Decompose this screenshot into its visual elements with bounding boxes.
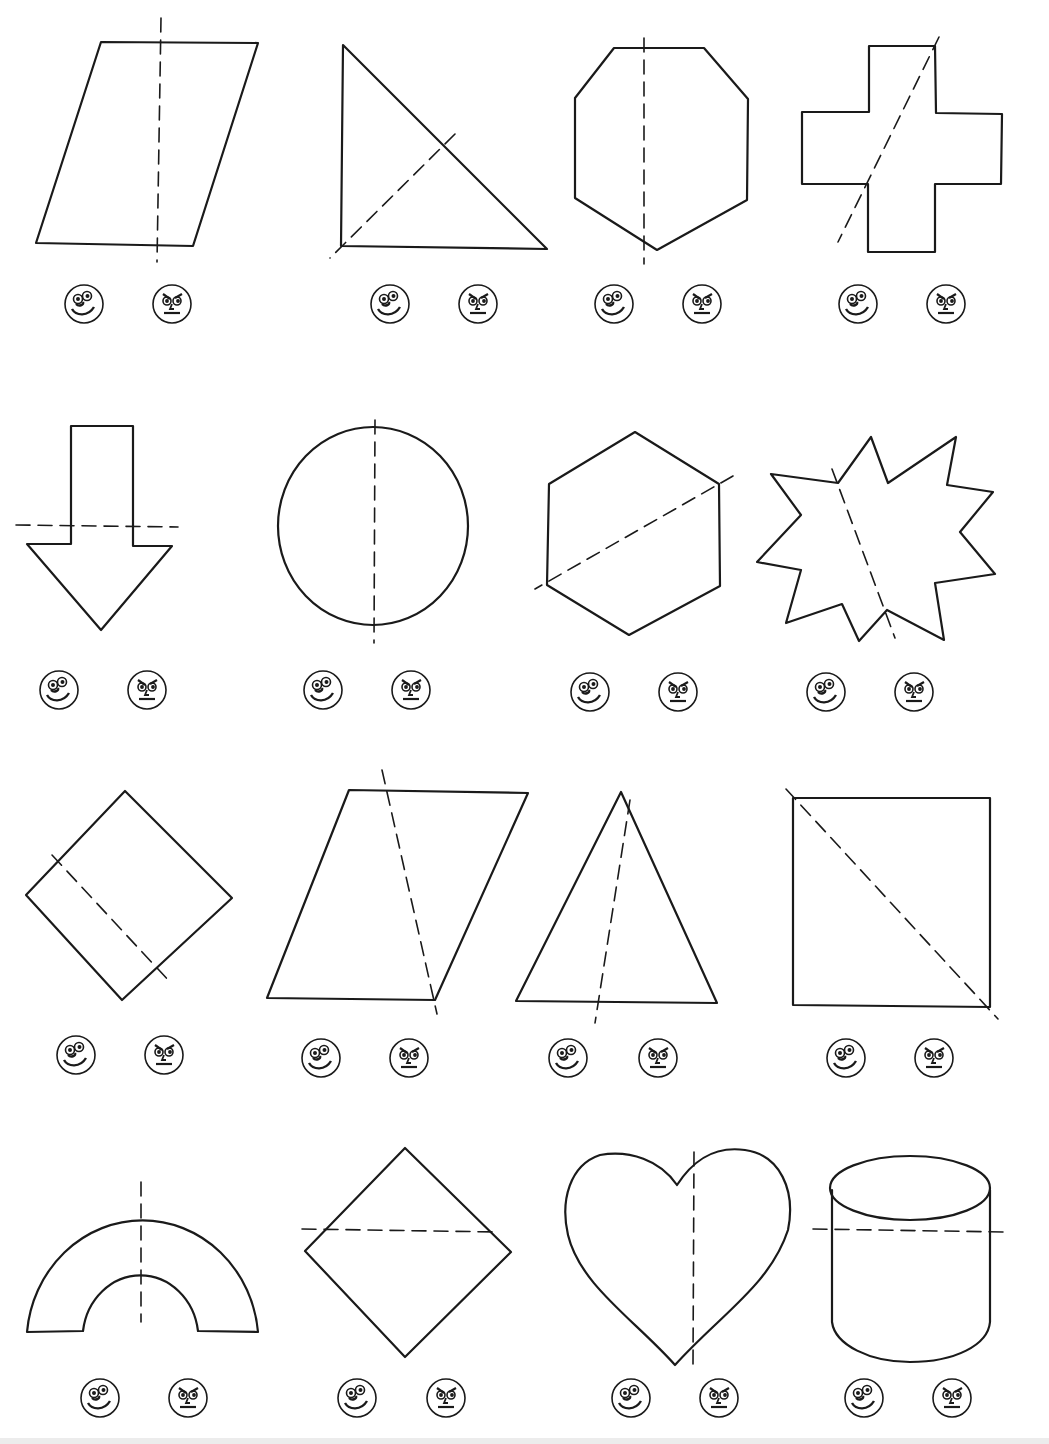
fold-line [832, 469, 895, 638]
shape-tilted-square [26, 791, 232, 1000]
symmetric-no-button-4[interactable] [925, 283, 967, 325]
shape-arch [27, 1182, 258, 1332]
frowning-face-icon [457, 283, 499, 325]
symmetric-yes-button-13[interactable] [79, 1377, 121, 1419]
frowning-face-icon [167, 1377, 209, 1419]
shape-circle [278, 420, 468, 643]
symmetric-yes-button-16[interactable] [843, 1377, 885, 1419]
symmetric-yes-button-2[interactable] [369, 283, 411, 325]
symmetric-yes-button-3[interactable] [593, 283, 635, 325]
smiley-face-icon [593, 283, 635, 325]
fold-line [16, 525, 178, 527]
shape-diamond [302, 1148, 511, 1357]
smiley-face-icon [369, 283, 411, 325]
symmetric-no-button-8[interactable] [893, 671, 935, 713]
fold-line [813, 1229, 1004, 1232]
symmetric-no-button-2[interactable] [457, 283, 499, 325]
page-bottom-edge [0, 1438, 1049, 1444]
fold-line [330, 134, 455, 258]
smiley-face-icon [300, 1037, 342, 1079]
symmetric-yes-button-8[interactable] [805, 671, 847, 713]
smiley-face-icon [569, 671, 611, 713]
smiley-face-icon [79, 1377, 121, 1419]
symmetric-yes-button-7[interactable] [569, 671, 611, 713]
smiley-face-icon [825, 1037, 867, 1079]
fold-line [382, 770, 437, 1014]
smiley-face-icon [843, 1377, 885, 1419]
symmetric-no-button-14[interactable] [425, 1377, 467, 1419]
frowning-face-icon [425, 1377, 467, 1419]
shape-cylinder [813, 1156, 1004, 1362]
symmetric-no-button-6[interactable] [390, 669, 432, 711]
smiley-face-icon [302, 669, 344, 711]
shapes-canvas: .fold{stroke-dasharray:14 8;stroke-width… [0, 0, 1049, 1444]
frowning-face-icon [388, 1037, 430, 1079]
smiley-face-icon [837, 283, 879, 325]
smiley-face-icon [38, 669, 80, 711]
shape-cross [802, 37, 1002, 252]
shape-parallelogram-1 [36, 18, 258, 262]
symmetric-yes-button-9[interactable] [55, 1034, 97, 1076]
symmetric-no-button-1[interactable] [151, 283, 193, 325]
symmetric-yes-button-4[interactable] [837, 283, 879, 325]
symmetric-no-button-16[interactable] [931, 1377, 973, 1419]
frowning-face-icon [698, 1377, 740, 1419]
symmetric-yes-button-11[interactable] [547, 1037, 589, 1079]
smiley-face-icon [805, 671, 847, 713]
symmetric-yes-button-1[interactable] [63, 283, 105, 325]
symmetric-no-button-7[interactable] [657, 671, 699, 713]
symmetric-yes-button-5[interactable] [38, 669, 80, 711]
frowning-face-icon [126, 669, 168, 711]
smiley-face-icon [63, 283, 105, 325]
symmetric-no-button-13[interactable] [167, 1377, 209, 1419]
fold-line [302, 1229, 498, 1232]
smiley-face-icon [610, 1377, 652, 1419]
shape-down-arrow [16, 426, 178, 630]
smiley-face-icon [336, 1377, 378, 1419]
shape-starburst [757, 437, 995, 641]
fold-line [786, 789, 998, 1019]
symmetric-no-button-5[interactable] [126, 669, 168, 711]
symmetric-no-button-9[interactable] [143, 1034, 185, 1076]
frowning-face-icon [931, 1377, 973, 1419]
symmetric-no-button-11[interactable] [637, 1037, 679, 1079]
shape-hexagon-2 [535, 432, 733, 635]
symmetric-yes-button-15[interactable] [610, 1377, 652, 1419]
frowning-face-icon [637, 1037, 679, 1079]
shape-right-triangle [330, 45, 547, 258]
shape-parallelogram-2 [267, 770, 528, 1014]
frowning-face-icon [390, 669, 432, 711]
symmetric-no-button-15[interactable] [698, 1377, 740, 1419]
symmetric-yes-button-14[interactable] [336, 1377, 378, 1419]
symmetric-yes-button-10[interactable] [300, 1037, 342, 1079]
fold-line [374, 420, 375, 643]
smiley-face-icon [55, 1034, 97, 1076]
shape-square [786, 789, 998, 1019]
frowning-face-icon [913, 1037, 955, 1079]
symmetric-no-button-10[interactable] [388, 1037, 430, 1079]
symmetric-no-button-12[interactable] [913, 1037, 955, 1079]
frowning-face-icon [925, 283, 967, 325]
fold-line [52, 855, 170, 982]
smiley-face-icon [547, 1037, 589, 1079]
fold-line [535, 476, 733, 589]
fold-line [693, 1152, 694, 1365]
frowning-face-icon [143, 1034, 185, 1076]
symmetry-worksheet: Lines of symmetry .fold{stroke-dasharray… [0, 0, 1049, 1444]
frowning-face-icon [681, 283, 723, 325]
shape-hexagon-1 [575, 38, 748, 264]
symmetric-no-button-3[interactable] [681, 283, 723, 325]
shape-isosceles-triangle [516, 792, 717, 1023]
fold-line [157, 18, 161, 262]
frowning-face-icon [151, 283, 193, 325]
frowning-face-icon [893, 671, 935, 713]
symmetric-yes-button-6[interactable] [302, 669, 344, 711]
symmetric-yes-button-12[interactable] [825, 1037, 867, 1079]
shape-heart [565, 1149, 790, 1365]
fold-line [838, 37, 939, 242]
frowning-face-icon [657, 671, 699, 713]
